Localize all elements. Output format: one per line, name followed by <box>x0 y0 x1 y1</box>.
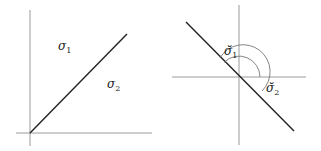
label-breve-sigma-2: σ̆2 <box>266 81 279 97</box>
figure: σ1 σ2 σ̆1 σ̆2 <box>0 0 321 151</box>
label-sigma-2: σ2 <box>107 77 120 93</box>
label-sigma-1: σ1 <box>58 39 71 55</box>
right-diagram: σ̆1 σ̆2 <box>172 5 306 145</box>
label-breve-sigma-1: σ̆1 <box>224 44 237 60</box>
left-diagram: σ1 σ2 <box>16 10 152 146</box>
